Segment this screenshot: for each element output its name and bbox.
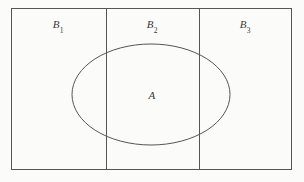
label-b3-base: B (240, 18, 247, 30)
label-b1-base: B (53, 18, 60, 30)
label-b2-base: B (147, 18, 154, 30)
label-a-base: A (149, 89, 156, 101)
label-b1: B1 (53, 18, 64, 33)
label-b2: B2 (147, 18, 158, 33)
label-b3: B3 (240, 18, 251, 33)
label-b3-subscript: 3 (247, 27, 251, 36)
label-a: A (149, 89, 156, 101)
diagram-canvas: B1 B2 B3 A (0, 0, 304, 182)
label-b1-subscript: 1 (60, 27, 64, 36)
label-b2-subscript: 2 (154, 27, 158, 36)
